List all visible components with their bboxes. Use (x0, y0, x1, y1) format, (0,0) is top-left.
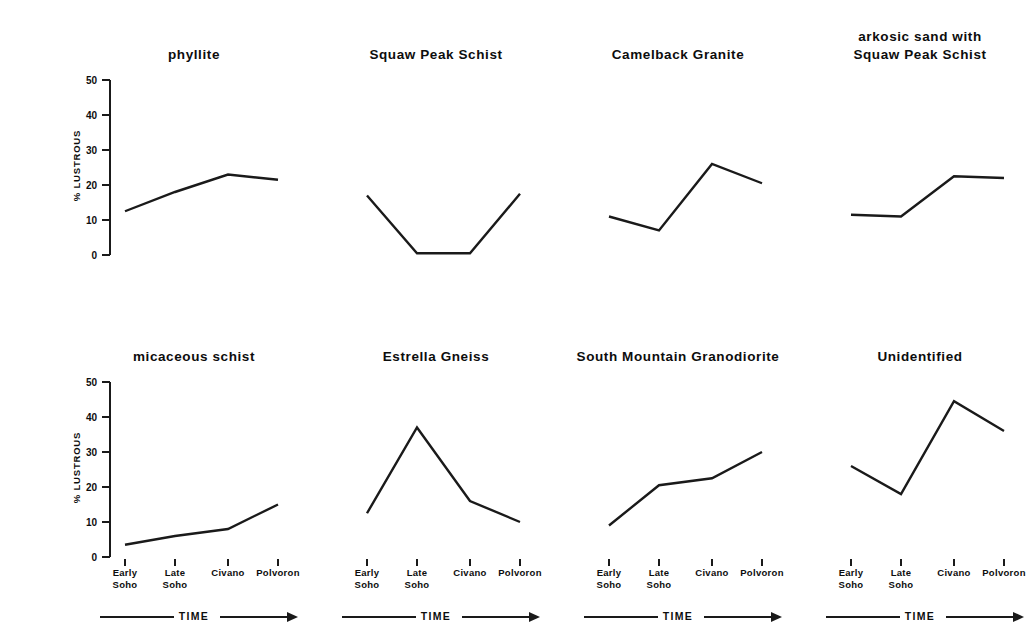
data-line (851, 176, 1004, 216)
x-tick-label: Polvoron (727, 567, 797, 579)
x-axis-labels: Early SohoLate SohoCivanoPolvoron (554, 562, 802, 606)
panel-title: arkosic sand with Squaw Peak Schist (796, 28, 1036, 64)
data-line (609, 452, 762, 526)
x-tick-label: Polvoron (243, 567, 313, 579)
time-axis-label: TIME (70, 610, 318, 622)
data-line (609, 164, 762, 231)
chart-panel: micaceous schist01020304050% LUSTROUSEar… (70, 330, 318, 620)
panel-title: Estrella Gneiss (312, 348, 560, 366)
time-axis: TIME (554, 608, 802, 622)
y-tick-label: 30 (86, 145, 98, 156)
plot-area (312, 80, 560, 255)
x-axis-labels: Early SohoLate SohoCivanoPolvoron (70, 562, 318, 606)
chart-panel: Squaw Peak Schist (312, 28, 560, 318)
plot-area (312, 382, 560, 557)
y-tick-label: 50 (86, 377, 98, 388)
panel-title: micaceous schist (70, 348, 318, 366)
plot-area (796, 382, 1036, 557)
chart-panel: Estrella GneissEarly SohoLate SohoCivano… (312, 330, 560, 620)
time-axis: TIME (70, 608, 318, 622)
panel-title: Squaw Peak Schist (312, 46, 560, 64)
panel-title: Unidentified (796, 348, 1036, 366)
x-axis-labels: Early SohoLate SohoCivanoPolvoron (796, 562, 1036, 606)
chart-panel: phyllite01020304050% LUSTROUS (70, 28, 318, 318)
y-axis: 01020304050% LUSTROUS (66, 382, 128, 557)
y-tick-label: 0 (91, 250, 97, 261)
y-tick-label: 10 (86, 517, 98, 528)
x-axis-labels: Early SohoLate SohoCivanoPolvoron (312, 562, 560, 606)
panel-title: phyllite (70, 46, 318, 64)
data-line (851, 401, 1004, 494)
y-axis-label: % LUSTROUS (71, 125, 82, 205)
chart-panel: South Mountain GranodioriteEarly SohoLat… (554, 330, 802, 620)
x-tick-label: Polvoron (969, 567, 1036, 579)
y-tick-label: 20 (86, 180, 98, 191)
time-axis-label: TIME (312, 610, 560, 622)
y-tick-label: 40 (86, 412, 98, 423)
time-axis-label: TIME (796, 610, 1036, 622)
chart-panel: UnidentifiedEarly SohoLate SohoCivanoPol… (796, 330, 1036, 620)
panel-title: South Mountain Granodiorite (554, 348, 802, 366)
y-tick-label: 50 (86, 75, 98, 86)
x-tick-label: Polvoron (485, 567, 555, 579)
chart-panel: Camelback Granite (554, 28, 802, 318)
y-axis-label: % LUSTROUS (71, 427, 82, 507)
data-line (125, 175, 278, 212)
y-tick-label: 10 (86, 215, 98, 226)
data-line (367, 428, 520, 523)
y-tick-label: 40 (86, 110, 98, 121)
time-axis: TIME (796, 608, 1036, 622)
time-axis: TIME (312, 608, 560, 622)
time-axis-label: TIME (554, 610, 802, 622)
y-tick-label: 30 (86, 447, 98, 458)
multi-panel-line-chart-figure: phyllite01020304050% LUSTROUSSquaw Peak … (0, 0, 1036, 622)
y-tick-label: 20 (86, 482, 98, 493)
plot-area (554, 80, 802, 255)
data-line (125, 505, 278, 545)
panel-title: Camelback Granite (554, 46, 802, 64)
plot-area (554, 382, 802, 557)
data-line (367, 194, 520, 254)
y-axis: 01020304050% LUSTROUS (66, 80, 128, 255)
chart-panel: arkosic sand with Squaw Peak Schist (796, 28, 1036, 318)
plot-area (796, 80, 1036, 255)
